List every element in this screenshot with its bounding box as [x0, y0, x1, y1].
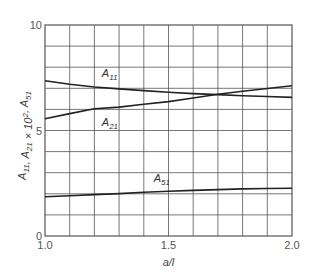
label-a11: A11	[101, 67, 118, 82]
label-a51: A51	[153, 172, 170, 187]
x-tick-label: 1.0	[37, 239, 52, 251]
y-axis-label: A11, A21 × 102, A51	[16, 91, 34, 181]
label-a21: A21	[101, 116, 118, 131]
grid-lines	[45, 25, 292, 236]
x-axis-label: a/l	[163, 256, 175, 268]
chart: A11A21A51 0510 1.01.52.0 a/l A11, A21 × …	[0, 0, 313, 279]
x-tick-label: 2.0	[284, 239, 299, 251]
x-axis-ticks: 1.01.52.0	[37, 239, 299, 251]
y-tick-label: 5	[36, 125, 42, 137]
x-tick-label: 1.5	[161, 239, 176, 251]
curve-labels: A11A21A51	[101, 67, 170, 188]
y-tick-label: 10	[30, 19, 42, 31]
